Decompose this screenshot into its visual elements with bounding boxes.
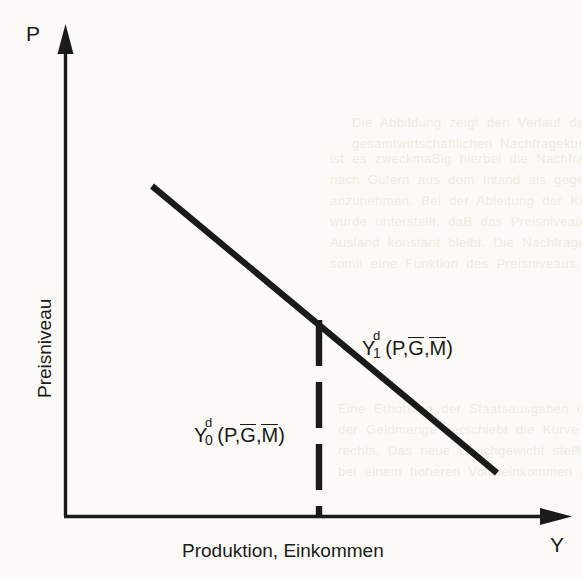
y-axis-letter: P — [26, 22, 40, 46]
curve-label-y0-arg-m: M — [261, 424, 278, 445]
aggregate-demand-diagram: ist es zweckmaBig hierbei die Nachfrage … — [0, 0, 582, 579]
curve-label-y1-arguments: (P,G,M) — [385, 337, 452, 360]
curve-label-y1-arg-open: (P, — [385, 337, 408, 359]
curve-label-y1-base: Y d 1 — [362, 337, 375, 360]
curve-label-y0-arg-close: ) — [278, 424, 285, 446]
x-axis-caption: Produktion, Einkommen — [182, 540, 384, 562]
curve-label-y1-arg-g: G — [408, 337, 424, 358]
y-axis-caption: Preisniveau — [34, 299, 56, 398]
curve-label-y1-arg-m: M — [429, 337, 446, 358]
curve-label-y1-arg-close: ) — [446, 337, 453, 359]
curve-label-y0: Y d 0 (P,G,M) — [194, 424, 285, 447]
curve-label-y0-superscript: d — [205, 415, 212, 430]
curve-label-y1-subscript: 1 — [373, 345, 381, 361]
curve-label-y0-arg-g: G — [240, 424, 256, 445]
curve-label-y0-subscript: 0 — [205, 432, 213, 448]
diagram-canvas — [0, 0, 582, 579]
curve-label-y1: Y d 1 (P,G,M) — [362, 337, 453, 360]
curve-label-y0-arguments: (P,G,M) — [217, 424, 284, 447]
curve-label-y0-arg-open: (P, — [217, 424, 240, 446]
curve-label-y1-superscript: d — [373, 328, 380, 343]
curve-label-y0-base: Y d 0 — [194, 424, 207, 447]
y-axis — [58, 24, 74, 516]
x-axis-letter: Y — [550, 533, 564, 557]
